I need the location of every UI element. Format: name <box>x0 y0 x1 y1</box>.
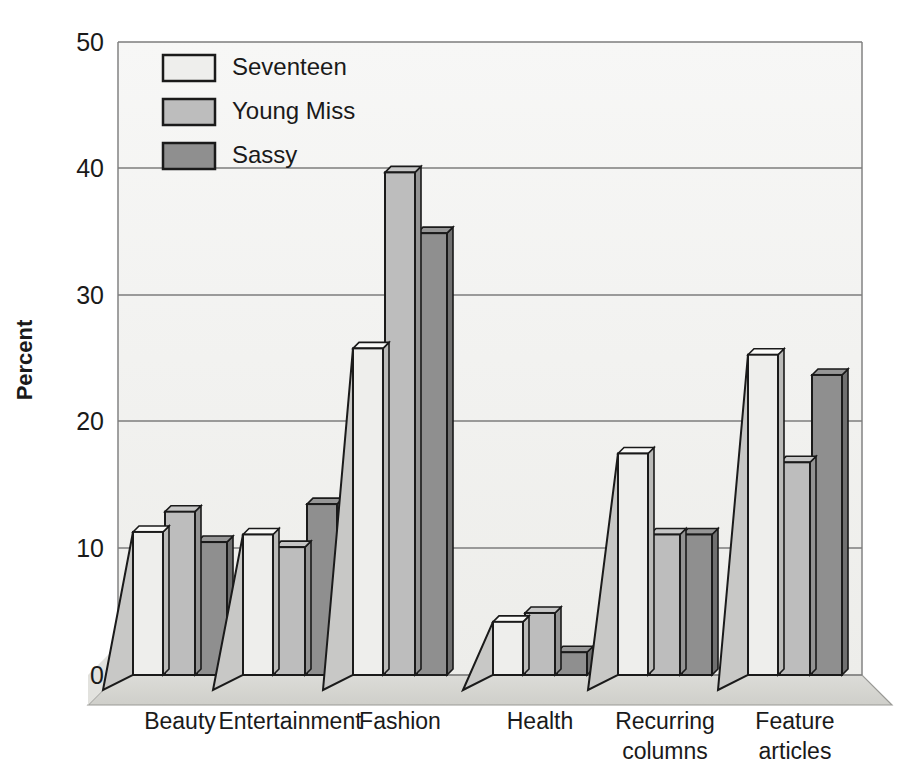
y-axis-tick-labels: 50 40 30 20 10 0 <box>76 28 104 689</box>
legend-swatch-seventeen <box>163 55 215 81</box>
y-tick-label-10: 10 <box>76 534 104 562</box>
bar-entertainment-seventeen <box>243 528 279 675</box>
floor-plane <box>88 675 892 705</box>
y-axis-title: Percent <box>12 319 37 400</box>
y-tick-label-50: 50 <box>76 28 104 56</box>
bar-recurring-columns-sassy <box>682 528 718 675</box>
x-axis-label-fashion: Fashion <box>359 708 441 734</box>
bar-beauty-young-miss <box>165 506 201 675</box>
x-axis-label-beauty: Beauty <box>144 708 216 734</box>
legend-entry-1: Young Miss <box>163 97 355 125</box>
bar-front-face <box>618 453 648 675</box>
bar-front-face <box>243 534 273 675</box>
bar-front-face <box>133 532 163 675</box>
bar-beauty-seventeen <box>133 526 169 675</box>
legend-swatch-young-miss <box>163 99 215 125</box>
legend-label-sassy: Sassy <box>232 141 297 168</box>
y-tick-label-30: 30 <box>76 281 104 309</box>
bar-front-face <box>748 355 778 675</box>
bar-fashion-young-miss <box>385 166 421 675</box>
bar-entertainment-young-miss <box>275 541 311 675</box>
bar-front-face <box>353 348 383 675</box>
bar-feature-articles-young-miss <box>780 456 816 675</box>
bar-fashion-sassy <box>417 227 453 675</box>
bar-health-sassy <box>557 646 593 675</box>
bar-health-young-miss <box>525 607 561 675</box>
y-tick-label-40: 40 <box>76 154 104 182</box>
y-tick-label-20: 20 <box>76 407 104 435</box>
bar-feature-articles-seventeen <box>748 349 784 675</box>
x-axis-label-recurring-columns: Recurring <box>615 708 715 734</box>
bar-recurring-columns-seventeen <box>618 447 654 675</box>
legend-entry-0: Seventeen <box>163 53 347 81</box>
x-axis-label-feature-articles: Feature <box>755 708 834 734</box>
legend-swatch-sassy <box>163 143 215 169</box>
bar-chart: 50 40 30 20 10 0 Percent BeautyEntertain… <box>0 0 909 775</box>
bar-recurring-columns-young-miss <box>650 528 686 675</box>
legend-label-young-miss: Young Miss <box>232 97 355 124</box>
bar-feature-articles-sassy <box>812 369 848 675</box>
y-tick-label-0: 0 <box>90 661 104 689</box>
bar-fashion-seventeen <box>353 342 389 675</box>
x-axis-label-feature-articles: articles <box>759 738 832 764</box>
bar-front-face <box>493 622 523 675</box>
x-axis-label-entertainment: Entertainment <box>218 708 362 734</box>
x-axis-label-recurring-columns: columns <box>622 738 708 764</box>
bar-health-seventeen <box>493 616 529 675</box>
legend-label-seventeen: Seventeen <box>232 53 347 80</box>
x-axis-category-labels: BeautyEntertainmentFashionHealthRecurrin… <box>144 708 834 764</box>
chart-figure: 50 40 30 20 10 0 Percent BeautyEntertain… <box>0 0 909 775</box>
x-axis-label-health: Health <box>507 708 573 734</box>
